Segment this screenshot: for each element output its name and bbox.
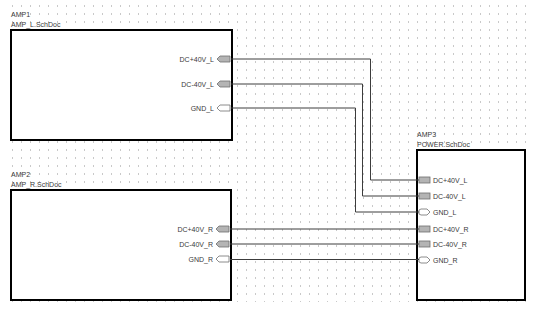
sheet-entry[interactable]: DC+40V_L <box>419 177 468 185</box>
sheet-entry-power-icon[interactable] <box>419 241 430 247</box>
sheet-entry-label: GND_L <box>433 209 456 217</box>
sheet-entry-label: DC-40V_L <box>181 81 214 89</box>
sheet-entry-power-icon[interactable] <box>217 81 230 87</box>
sheet-entry[interactable]: DC-40V_R <box>179 241 229 249</box>
sheet-entry-power-icon[interactable] <box>419 226 430 232</box>
sheet-designator: AMP1 <box>11 11 30 18</box>
sheet-symbol-amp2[interactable]: AMP2 AMP_R.SchDoc DC+40V_R DC-40V_R GND_… <box>11 171 231 300</box>
sheet-entry-label: GND_R <box>188 256 213 264</box>
sheet-entry-passive-icon[interactable] <box>216 256 229 262</box>
sheet-designator: AMP3 <box>417 131 436 138</box>
sheet-entry[interactable]: GND_L <box>419 209 456 217</box>
sheet-entry-power-icon[interactable] <box>419 193 430 199</box>
sheet-entry-power-icon[interactable] <box>217 56 230 62</box>
sheet-designator: AMP2 <box>11 171 30 178</box>
sheet-entry-label: DC+40V_R <box>433 226 469 234</box>
sheet-entry-label: DC-40V_L <box>433 193 466 201</box>
sheet-entry[interactable]: GND_R <box>419 257 458 265</box>
sheet-entry[interactable]: GND_L <box>191 105 230 113</box>
sheet-entry-label: DC+40V_L <box>433 177 468 185</box>
sheet-filename: AMP_L.SchDoc <box>11 21 61 29</box>
sheet-entry[interactable]: DC-40V_L <box>419 193 466 201</box>
sheet-symbol-amp3[interactable]: AMP3 POWER.SchDoc DC+40V_L DC-40V_L GND_… <box>417 131 525 300</box>
sheet-entry-passive-icon[interactable] <box>419 209 430 215</box>
sheet-entry-label: GND_L <box>191 105 214 113</box>
sheet-entry-label: DC+40V_R <box>177 226 213 234</box>
sheet-entry[interactable]: DC-40V_R <box>419 241 467 249</box>
sheet-entry-label: DC+40V_L <box>180 56 215 64</box>
sheet-entry[interactable]: GND_R <box>188 256 229 264</box>
wire-dc-minus-40v-l[interactable] <box>231 84 419 196</box>
sheet-entry[interactable]: DC+40V_R <box>177 226 229 234</box>
wire-dc-plus-40v-l[interactable] <box>231 59 419 180</box>
sheet-entry-passive-icon[interactable] <box>419 257 430 263</box>
sheet-filename: AMP_R.SchDoc <box>11 181 62 189</box>
sheet-filename: POWER.SchDoc <box>417 141 470 148</box>
sheet-entry-label: DC-40V_R <box>179 241 213 249</box>
sheet-entry[interactable]: DC-40V_L <box>181 81 230 89</box>
sheet-entry[interactable]: DC+40V_R <box>419 226 469 234</box>
schematic-drawing[interactable]: AMP1 AMP_L.SchDoc DC+40V_L DC-40V_L GND_… <box>0 0 537 309</box>
sheet-entry-power-icon[interactable] <box>419 177 430 183</box>
schematic-canvas[interactable]: AMP1 AMP_L.SchDoc DC+40V_L DC-40V_L GND_… <box>0 0 537 309</box>
sheet-entry-label: DC-40V_R <box>433 241 467 249</box>
sheet-entry-power-icon[interactable] <box>216 226 229 232</box>
sheet-symbol-amp1[interactable]: AMP1 AMP_L.SchDoc DC+40V_L DC-40V_L GND_… <box>11 11 232 140</box>
sheet-entry-passive-icon[interactable] <box>217 105 230 111</box>
sheet-entry[interactable]: DC+40V_L <box>180 56 230 64</box>
sheet-entry-label: GND_R <box>433 257 458 265</box>
sheet-entry-power-icon[interactable] <box>216 241 229 247</box>
